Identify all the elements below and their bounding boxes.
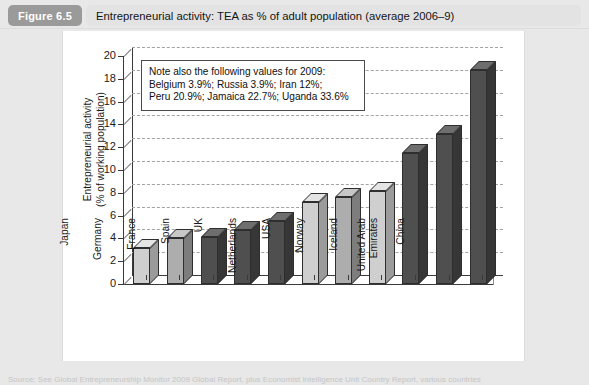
x-axis-tick-label: UK <box>193 218 205 298</box>
y-axis-tick-label: 0 <box>110 277 116 289</box>
y-axis-tick-connector <box>124 49 132 57</box>
gridline <box>132 115 503 116</box>
x-axis-tick-label: Japan <box>59 218 71 298</box>
x-axis-tick <box>449 275 450 280</box>
x-axis-tick <box>280 275 281 280</box>
figure-number-badge: Figure 6.5 <box>8 5 82 26</box>
x-axis-tick-label: Iceland <box>328 218 340 298</box>
bar-side-face <box>251 221 260 284</box>
y-axis-tick-connector <box>124 140 132 148</box>
x-axis-tick-label: Netherlands <box>227 218 239 298</box>
chart-panel: Entrepreneurial activity (% of working p… <box>62 31 525 361</box>
chart-annotation-box: Note also the following values for 2009:… <box>141 60 365 111</box>
y-axis-tick-label: 6 <box>110 209 116 221</box>
y-axis-tick-connector <box>124 72 132 80</box>
x-axis-tick <box>247 275 248 280</box>
y-axis-tick-label: 4 <box>110 231 116 243</box>
figure-title: Entrepreneurial activity: TEA as % of ad… <box>86 5 581 26</box>
y-axis-tick-label: 10 <box>104 163 116 175</box>
x-axis-tick-label: France <box>126 218 138 298</box>
bar <box>436 134 453 284</box>
bar-front-face <box>470 70 487 284</box>
x-axis-tick-label: Germany <box>92 218 104 298</box>
x-axis-tick <box>179 275 180 280</box>
x-axis-tick <box>146 275 147 280</box>
figure-source: Source: See Global Entrepreneurship Moni… <box>8 375 583 384</box>
x-axis-tick <box>482 275 483 280</box>
x-axis-tick-label: Spain <box>160 218 172 298</box>
bar-side-face <box>184 229 193 284</box>
y-axis-tick-connector <box>124 117 132 125</box>
bar-side-face <box>419 144 428 284</box>
x-axis-tick-label: Norway <box>294 218 306 298</box>
y-axis-tick-connector <box>124 163 132 171</box>
y-axis-tick-connector <box>124 95 132 103</box>
x-axis-tick <box>415 275 416 280</box>
figure-container: Figure 6.5 Entrepreneurial activity: TEA… <box>0 0 589 385</box>
bar-chart: Entrepreneurial activity (% of working p… <box>63 31 526 361</box>
x-axis-tick <box>348 275 349 280</box>
x-axis-tick <box>381 275 382 280</box>
y-axis-tick-label: 2 <box>110 254 116 266</box>
y-axis-tick-label: 18 <box>104 72 116 84</box>
bar-side-face <box>386 182 395 284</box>
x-axis-line <box>123 284 494 285</box>
y-axis-tick-label: 14 <box>104 117 116 129</box>
y-axis-tick-label: 12 <box>104 140 116 152</box>
bar <box>470 70 487 284</box>
x-axis-tick <box>213 275 214 280</box>
x-axis-tick-label: United Arab Emirates <box>356 218 379 298</box>
bar-front-face <box>436 134 453 284</box>
bar-side-face <box>218 228 227 284</box>
y-axis-tick-label: 16 <box>104 95 116 107</box>
gridline <box>132 47 503 48</box>
x-axis-tick <box>314 275 315 280</box>
y-axis-tick-connector <box>124 186 132 194</box>
bar-side-face <box>285 212 294 284</box>
bar-side-face <box>150 239 159 284</box>
header-divider <box>0 28 589 29</box>
bar-side-face <box>453 125 462 284</box>
y-axis-tick-label: 20 <box>104 49 116 61</box>
x-axis-tick-label: China <box>395 218 407 298</box>
bar-side-face <box>487 61 496 284</box>
y-axis-tick-connector <box>124 209 132 217</box>
x-axis-tick-label: USA <box>261 218 273 298</box>
y-axis-tick-label: 8 <box>110 186 116 198</box>
bar-side-face <box>319 193 328 284</box>
y-axis-title: Entrepreneurial activity (% of working p… <box>82 75 107 225</box>
figure-header: Figure 6.5 Entrepreneurial activity: TEA… <box>8 5 581 26</box>
